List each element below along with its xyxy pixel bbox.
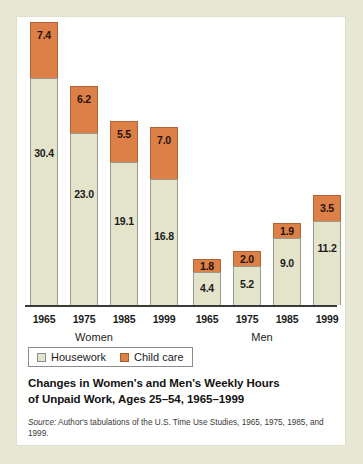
bar-segment-childcare[interactable]: 1.8	[193, 259, 221, 272]
x-axis-tick-labels: 1965 1975 1985 1999 1965 1975 1985 1999	[17, 313, 345, 329]
bar-value-housework: 19.1	[114, 216, 134, 227]
legend-label-childcare: Child care	[134, 351, 184, 363]
tick-women-1975: 1975	[64, 313, 104, 325]
bar-segment-housework[interactable]: 16.8	[150, 179, 178, 305]
bar-value-childcare: 5.5	[117, 129, 131, 140]
bar-value-childcare: 7.0	[157, 135, 171, 146]
bar-value-housework: 30.4	[34, 148, 54, 159]
caption-block: Changes in Women's and Men's Weekly Hour…	[28, 375, 334, 440]
tick-men-1975: 1975	[227, 313, 267, 325]
bar-value-housework: 11.2	[317, 243, 336, 254]
bar-segment-housework[interactable]: 4.4	[193, 272, 221, 305]
source-label: Source:	[28, 418, 56, 427]
bar-men-1999[interactable]: 3.5 11.2	[313, 195, 341, 305]
bar-segment-housework[interactable]: 30.4	[30, 78, 58, 305]
source-text: Author's tabulations of the U.S. Time Us…	[28, 418, 324, 439]
group-label-women: Women	[19, 331, 169, 343]
bar-value-childcare: 1.9	[280, 226, 294, 237]
bar-value-childcare: 7.4	[37, 30, 51, 41]
bar-value-housework: 5.2	[240, 279, 254, 290]
bar-segment-housework[interactable]: 23.0	[70, 133, 98, 305]
bar-men-1965[interactable]: 1.8 4.4	[193, 259, 221, 305]
figure-panel: 7.4 30.4 6.2 23.0 5.5 19.1	[17, 17, 345, 445]
legend-label-housework: Housework	[51, 351, 106, 363]
bar-segment-housework[interactable]: 5.2	[233, 266, 261, 305]
bar-segment-childcare[interactable]: 3.5	[313, 195, 341, 221]
bar-value-housework: 4.4	[200, 283, 214, 294]
group-label-men: Men	[187, 331, 337, 343]
chart-title-line1: Changes in Women's and Men's Weekly Hour…	[28, 375, 334, 391]
x-axis-line	[25, 305, 337, 307]
chart-source-note: Source: Author's tabulations of the U.S.…	[28, 417, 334, 440]
bar-segment-housework[interactable]: 11.2	[313, 221, 341, 305]
group-labels: Women Men	[17, 331, 345, 347]
bar-segment-housework[interactable]: 19.1	[110, 162, 138, 305]
bar-segment-childcare[interactable]: 7.0	[150, 127, 178, 179]
bar-value-childcare: 6.2	[77, 94, 91, 105]
bar-segment-childcare[interactable]: 2.0	[233, 251, 261, 266]
tick-men-1965: 1965	[187, 313, 227, 325]
bar-value-childcare: 3.5	[320, 203, 334, 214]
bar-value-housework: 23.0	[74, 189, 94, 200]
bar-value-housework: 16.8	[154, 231, 174, 242]
bar-segment-housework[interactable]: 9.0	[273, 238, 301, 305]
tick-men-1985: 1985	[267, 313, 307, 325]
chart-legend: Housework Child care	[28, 347, 193, 367]
bar-women-1965[interactable]: 7.4 30.4	[30, 22, 58, 305]
chart-title: Changes in Women's and Men's Weekly Hour…	[28, 375, 334, 408]
bar-value-housework: 9.0	[280, 258, 294, 269]
bar-women-1999[interactable]: 7.0 16.8	[150, 127, 178, 305]
tick-women-1985: 1985	[104, 313, 144, 325]
tick-men-1999: 1999	[307, 313, 347, 325]
bar-segment-childcare[interactable]: 6.2	[70, 86, 98, 133]
chart-title-line2: of Unpaid Work, Ages 25–54, 1965–1999	[28, 391, 334, 407]
bar-segment-childcare[interactable]: 1.9	[273, 223, 301, 238]
bar-men-1985[interactable]: 1.9 9.0	[273, 223, 301, 305]
legend-swatch-housework-icon	[37, 353, 46, 362]
bar-value-childcare: 1.8	[200, 261, 214, 272]
bar-value-childcare: 2.0	[240, 254, 254, 265]
bar-segment-childcare[interactable]: 7.4	[30, 22, 58, 78]
bar-men-1975[interactable]: 2.0 5.2	[233, 251, 261, 305]
tick-women-1999: 1999	[144, 313, 184, 325]
legend-item-childcare[interactable]: Child care	[120, 351, 184, 363]
tick-women-1965: 1965	[24, 313, 64, 325]
legend-item-housework[interactable]: Housework	[37, 351, 106, 363]
legend-swatch-childcare-icon	[120, 353, 129, 362]
bar-segment-childcare[interactable]: 5.5	[110, 121, 138, 162]
bar-women-1985[interactable]: 5.5 19.1	[110, 121, 138, 305]
chart-plot-area: 7.4 30.4 6.2 23.0 5.5 19.1	[17, 17, 345, 313]
bar-women-1975[interactable]: 6.2 23.0	[70, 86, 98, 305]
